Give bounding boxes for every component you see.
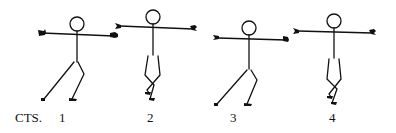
dance-diagram: CTS. 1 2 3 4 [0, 0, 396, 133]
count-4-label: 4 [329, 111, 336, 124]
stick-figure-1 [38, 17, 118, 101]
stick-figure-4 [293, 14, 376, 105]
counts-label: CTS. [15, 111, 42, 124]
count-3-label: 3 [230, 111, 237, 124]
count-2-label: 2 [147, 111, 154, 124]
stick-figure-3 [213, 21, 289, 106]
count-1-label: 1 [59, 111, 66, 124]
stick-figure-2 [115, 10, 197, 101]
